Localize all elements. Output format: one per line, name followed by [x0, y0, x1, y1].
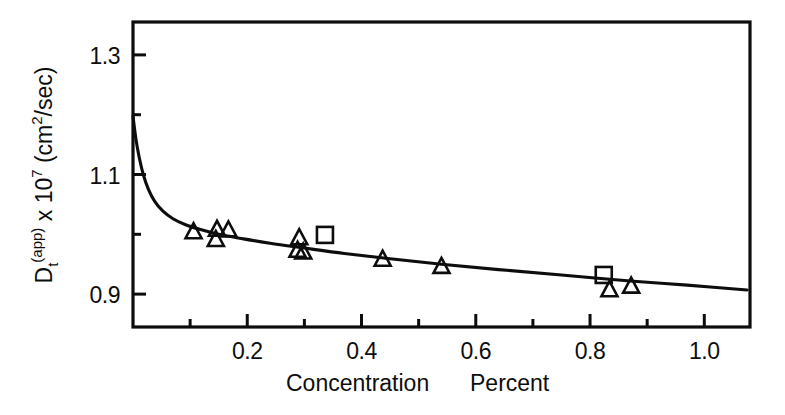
y-tick-label: 0.9: [90, 282, 120, 308]
x-axis-ticks: [190, 314, 704, 327]
svg-text:Dt(app) x 107 (cm2/sec): Dt(app) x 107 (cm2/sec): [28, 67, 61, 284]
fit-curve-path: [133, 116, 747, 289]
y-axis-title-unit-suffix: /sec): [31, 67, 57, 117]
x-axis-tick-labels: 0.20.40.60.81.0: [232, 338, 720, 364]
x-axis-title: Concentration Percent: [286, 370, 550, 396]
x-tick-label: 0.8: [575, 338, 605, 364]
y-axis-title-subscript: t: [44, 262, 61, 267]
x-tick-label: 0.2: [232, 338, 262, 364]
y-axis-title-unit-prefix: (cm: [31, 125, 57, 170]
plot-frame: [133, 22, 750, 327]
y-axis-title-exponent: 7: [28, 169, 45, 177]
x-axis-title-part-2: Percent: [470, 370, 550, 396]
y-axis-title-mid: x 10: [31, 178, 57, 228]
x-tick-label: 0.4: [346, 338, 377, 364]
chart-canvas: 0.20.40.60.81.0 0.91.11.3 Concentration …: [0, 0, 785, 415]
marker-triangle: [220, 221, 236, 236]
x-tick-label: 1.0: [689, 338, 719, 364]
figure-container: 0.20.40.60.81.0 0.91.11.3 Concentration …: [0, 0, 785, 415]
x-axis-title-part-1: Concentration: [286, 370, 429, 396]
fitted-curve: [133, 116, 747, 289]
y-axis-title-superscript-group: (app): [28, 228, 45, 263]
data-markers: [186, 221, 640, 296]
y-axis-title-unit-exponent: 2: [28, 116, 45, 124]
marker-triangle: [291, 229, 307, 244]
y-tick-label: 1.1: [90, 163, 120, 189]
y-axis-title-base: D: [31, 267, 57, 284]
y-axis-tick-labels: 0.91.11.3: [90, 43, 120, 308]
y-axis-title: Dt(app) x 107 (cm2/sec): [28, 67, 61, 284]
x-tick-label: 0.6: [461, 338, 491, 364]
marker-square: [317, 227, 333, 243]
y-tick-label: 1.3: [90, 43, 120, 69]
